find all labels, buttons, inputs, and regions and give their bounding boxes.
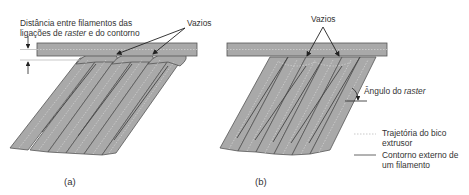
legend-item-filament-contour: Contorno externo de um filamento bbox=[382, 150, 458, 170]
caption-a: (a) bbox=[64, 176, 76, 187]
panel-a-filaments bbox=[10, 54, 186, 155]
voids-label-b: Vazios bbox=[311, 14, 336, 24]
distance-label: Distância entre filamentos das ligações … bbox=[20, 18, 140, 38]
voids-label-a: Vazios bbox=[187, 18, 212, 28]
panel-b-filaments bbox=[220, 57, 376, 155]
caption-b: (b) bbox=[255, 176, 267, 187]
legend-item-nozzle-path: Trajetória do bico extrusor bbox=[382, 128, 446, 148]
panel-a-contour-bar bbox=[37, 43, 197, 56]
legend-swatches bbox=[354, 134, 376, 155]
raster-angle-label: Ângulo do raster bbox=[364, 86, 425, 96]
panel-b-contour-bar bbox=[227, 43, 387, 56]
